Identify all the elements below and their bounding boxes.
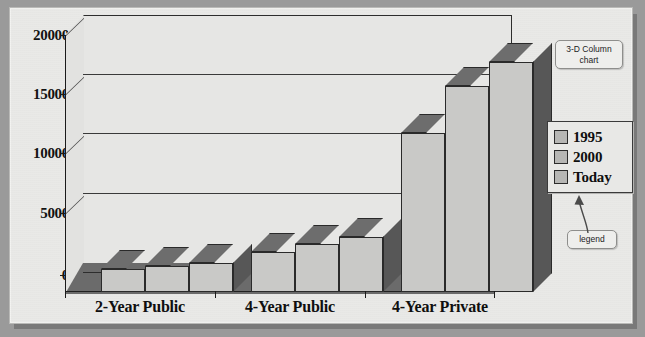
column-4year-private-1995[interactable] [401, 15, 445, 292]
category-label-4year-private: 4-Year Private [365, 298, 515, 316]
column-front-face [295, 244, 339, 292]
legend[interactable]: 1995 2000 Today [547, 121, 633, 193]
y-axis-tick-0 [60, 275, 66, 276]
y-axis-tick-5000 [60, 213, 66, 214]
column-front-face [445, 86, 489, 292]
column-front-face [189, 263, 233, 292]
legend-label: 1995 [573, 130, 602, 145]
x-axis-tick-1 [215, 291, 216, 298]
x-axis-tick-start [65, 291, 66, 298]
column-front-face [339, 237, 383, 292]
y-axis-tick-15000 [60, 94, 66, 95]
x-axis-tick-end [494, 291, 495, 298]
legend-item-2000[interactable]: 2000 [554, 147, 626, 167]
legend-item-today[interactable]: Today [554, 167, 626, 187]
column-top-face [251, 233, 295, 252]
legend-swatch-icon [554, 150, 568, 164]
column-top-face [445, 67, 489, 86]
column-front-face [401, 133, 445, 292]
column-top-face [101, 250, 145, 269]
column-front-face [101, 269, 145, 292]
callout-legend-arrow-icon [570, 190, 610, 235]
legend-label: 2000 [573, 150, 602, 165]
column-top-face [295, 225, 339, 244]
screenshot-root: 20000 15000 10000 5000 0 [0, 0, 645, 337]
column-4year-public-1995[interactable] [251, 15, 295, 292]
legend-swatch-icon [554, 130, 568, 144]
column-4year-private-2000[interactable] [445, 15, 489, 292]
column-top-face [401, 114, 445, 133]
column-front-face [251, 252, 295, 292]
legend-label: Today [573, 170, 611, 185]
column-4year-public-today[interactable] [339, 15, 383, 292]
column-2year-public-2000[interactable] [145, 15, 189, 292]
column-front-face [145, 266, 189, 292]
y-axis-tick-10000 [60, 153, 66, 154]
callout-chart-type: 3-D Column chart [555, 40, 623, 69]
legend-swatch-icon [554, 170, 568, 184]
legend-item-1995[interactable]: 1995 [554, 127, 626, 147]
column-2year-public-1995[interactable] [101, 15, 145, 292]
column-top-face [189, 244, 233, 263]
column-top-face [339, 218, 383, 237]
column-4year-public-2000[interactable] [295, 15, 339, 292]
chart-3d-column: 20000 15000 10000 5000 0 [9, 7, 631, 322]
x-axis-tick-2 [365, 291, 366, 298]
column-2year-public-today[interactable] [189, 15, 233, 292]
y-axis-tick-20000 [60, 35, 66, 36]
column-top-face [489, 43, 533, 62]
category-label-2year-public: 2-Year Public [65, 298, 215, 316]
plot-area [65, 15, 513, 297]
y-axis-line [65, 35, 66, 292]
column-top-face [145, 247, 189, 266]
plot-left-wall [65, 15, 84, 292]
column-front-face [489, 62, 533, 292]
category-label-4year-public: 4-Year Public [215, 298, 365, 316]
column-4year-private-today[interactable] [489, 15, 533, 292]
